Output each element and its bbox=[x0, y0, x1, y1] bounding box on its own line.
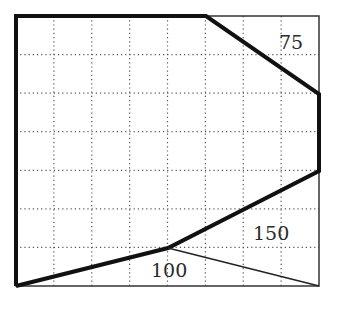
label-100: 100 bbox=[151, 259, 187, 281]
dotted-grid bbox=[16, 16, 319, 286]
label-75: 75 bbox=[279, 31, 303, 53]
thin-divider-line bbox=[168, 248, 319, 286]
label-150: 150 bbox=[253, 222, 289, 244]
grid-region-diagram: 75 150 100 bbox=[0, 0, 343, 311]
